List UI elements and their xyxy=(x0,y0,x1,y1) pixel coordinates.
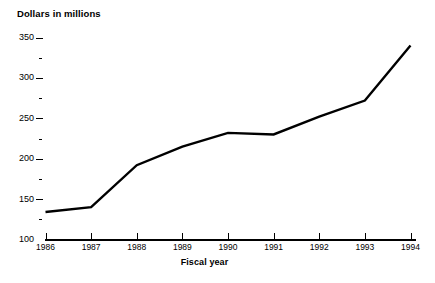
x-axis-tick xyxy=(182,233,183,239)
x-axis-tick-label: 1993 xyxy=(355,243,374,252)
x-axis-tick xyxy=(228,233,229,239)
y-axis-tick-label: 150 xyxy=(8,195,34,204)
y-axis-tick-major xyxy=(36,38,43,39)
x-axis-tick-label: 1991 xyxy=(264,243,283,252)
y-axis-tick-major xyxy=(36,199,43,200)
x-axis-title-text: Fiscal year xyxy=(181,257,229,267)
x-axis-tick xyxy=(365,233,366,239)
y-axis-tick-label: 200 xyxy=(8,154,34,163)
x-axis-tick xyxy=(411,233,412,239)
y-axis-tick-minor xyxy=(39,179,42,180)
x-axis-tick-label: 1992 xyxy=(310,243,329,252)
x-axis-tick-label: 1990 xyxy=(219,243,238,252)
x-axis-tick-label: 1994 xyxy=(401,243,420,252)
y-axis-tick-labels: 100150200250300350 xyxy=(8,0,34,283)
x-axis-tick-label: 1988 xyxy=(127,243,146,252)
x-axis-tick xyxy=(274,233,275,239)
x-axis-title: Fiscal year xyxy=(0,257,435,267)
y-axis-tick-minor xyxy=(39,98,42,99)
x-axis-tick-label: 1989 xyxy=(173,243,192,252)
y-axis-tick-minor xyxy=(39,219,42,220)
series-line-dollars-in-millions xyxy=(46,46,411,212)
x-axis-tick xyxy=(319,233,320,239)
y-axis-tick-label: 100 xyxy=(8,235,34,244)
y-axis-tick-major xyxy=(36,159,43,160)
x-axis-tick-label: 1986 xyxy=(36,243,55,252)
line-chart: Dollars in millions 100150200250300350 1… xyxy=(0,0,435,283)
y-axis-tick-major xyxy=(36,118,43,119)
x-axis-tick xyxy=(137,233,138,239)
y-axis-tick-label: 250 xyxy=(8,114,34,123)
x-axis-line xyxy=(45,239,416,241)
y-axis-tick-label: 350 xyxy=(8,33,34,42)
x-axis-tick xyxy=(91,233,92,239)
y-axis-tick-label: 300 xyxy=(8,73,34,82)
y-axis-tick-minor xyxy=(39,139,42,140)
x-axis-tick-label: 1987 xyxy=(82,243,101,252)
y-axis-tick-major xyxy=(36,78,43,79)
x-axis-tick xyxy=(46,233,47,239)
y-axis-tick-minor xyxy=(39,58,42,59)
